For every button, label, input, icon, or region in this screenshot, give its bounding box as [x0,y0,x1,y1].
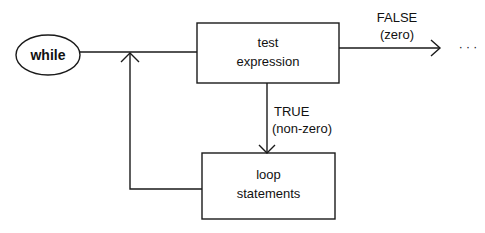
loop-label-line2: statements [202,185,335,203]
test-label-line1: test [197,34,339,52]
continuation-ellipsis: · · · [452,38,484,56]
false-label: FALSE [362,9,432,27]
while-loop-diagram: while test expression loop statements FA… [0,0,485,233]
test-label-line2: expression [197,53,339,71]
true-sublabel: (non-zero) [272,120,352,138]
while-label: while [16,46,80,64]
false-sublabel: (zero) [362,26,432,44]
true-label: TRUE [274,103,314,121]
loop-label-line1: loop [202,166,335,184]
